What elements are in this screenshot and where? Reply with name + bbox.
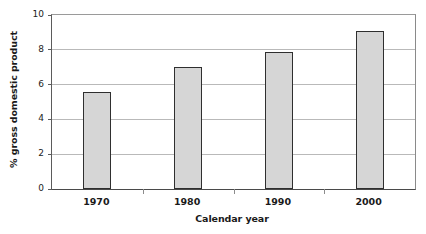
x-axis-minor-tick bbox=[234, 189, 235, 194]
y-axis-tick-label: 0 bbox=[24, 183, 44, 193]
bar bbox=[174, 67, 202, 189]
bar-chart: % gross domestic product 0246810 1970198… bbox=[0, 0, 426, 234]
y-axis-title: % gross domestic product bbox=[8, 5, 19, 195]
gridline bbox=[52, 15, 415, 16]
y-axis-tick-label: 10 bbox=[24, 9, 44, 19]
y-axis-tick-label: 2 bbox=[24, 148, 44, 158]
y-axis-tick-label: 8 bbox=[24, 44, 44, 54]
x-axis-tick-labels: 1970198019902000 bbox=[51, 196, 414, 212]
y-axis-tick bbox=[48, 15, 52, 16]
x-axis-minor-tick bbox=[324, 189, 325, 194]
y-axis-tick-label: 6 bbox=[24, 79, 44, 89]
x-axis-title: Calendar year bbox=[50, 213, 414, 224]
y-axis-tick-labels: 0246810 bbox=[21, 0, 44, 234]
y-axis-tick bbox=[48, 189, 52, 190]
bar bbox=[83, 92, 111, 189]
y-axis-tick bbox=[48, 154, 52, 155]
x-axis-minor-tick bbox=[143, 189, 144, 194]
x-axis-tick-label: 1990 bbox=[248, 196, 308, 207]
y-axis-tick bbox=[48, 119, 52, 120]
x-axis-tick-label: 1980 bbox=[157, 196, 217, 207]
y-axis-tick bbox=[48, 84, 52, 85]
bar bbox=[265, 52, 293, 189]
x-axis-tick-label: 1970 bbox=[66, 196, 126, 207]
y-axis-tick bbox=[48, 49, 52, 50]
y-axis-tick-label: 4 bbox=[24, 113, 44, 123]
x-axis-tick-label: 2000 bbox=[339, 196, 399, 207]
plot-area bbox=[51, 14, 416, 190]
bar bbox=[356, 31, 384, 189]
